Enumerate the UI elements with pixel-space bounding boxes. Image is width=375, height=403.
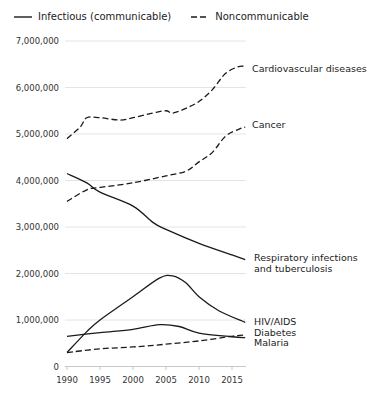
y-tick: 5,000,000 [16,129,59,139]
line-chart: 7,000,000 6,000,000 5,000,000 4,000,000 … [0,0,375,403]
x-tick: 2010 [188,375,210,385]
x-tick: 2000 [122,375,144,385]
gridlines [65,41,246,367]
y-tick: 0 [54,362,59,372]
series-hiv-aids [67,275,245,352]
label-cancer: Cancer [252,119,286,130]
y-tick: 2,000,000 [16,269,59,279]
legend-item-noncommunicable: Noncommunicable [191,11,308,22]
series-labels: Cardiovascular diseases Cancer Respirato… [252,63,367,348]
legend-label-infectious: Infectious (communicable) [38,11,171,22]
x-tick: 1990 [56,375,78,385]
y-tick: 4,000,000 [16,176,59,186]
series-respiratory-infections-and-tuberculosis [67,174,245,260]
label-malaria: Malaria [254,337,289,348]
legend-item-infectious: Infectious (communicable) [14,11,171,22]
y-tick: 1,000,000 [16,315,59,325]
solid-line-icon [14,14,32,20]
y-axis-labels: 7,000,000 6,000,000 5,000,000 4,000,000 … [16,36,59,372]
legend-label-noncommunicable: Noncommunicable [215,11,308,22]
series-diabetes [67,335,245,353]
x-tick: 1995 [89,375,111,385]
y-tick: 6,000,000 [16,83,59,93]
label-respiratory-line1: Respiratory infections [254,252,358,263]
label-respiratory-line2: and tuberculosis [254,263,332,274]
y-tick: 3,000,000 [16,222,59,232]
series-cardiovascular-diseases [67,66,245,139]
x-tick: 2015 [221,375,243,385]
legend: Infectious (communicable) Noncommunicabl… [14,11,309,22]
dashed-line-icon [191,14,209,20]
label-hiv-aids: HIV/AIDS [254,316,296,327]
series-layer [67,66,245,352]
series-malaria [67,325,245,338]
series-cancer [67,127,245,201]
x-tick: 2005 [155,375,177,385]
x-axis-labels: 1990 1995 2000 2005 2010 2015 [56,375,243,385]
label-cardiovascular: Cardiovascular diseases [252,63,367,74]
y-tick: 7,000,000 [16,36,59,46]
chart-container: 7,000,000 6,000,000 5,000,000 4,000,000 … [0,0,375,403]
